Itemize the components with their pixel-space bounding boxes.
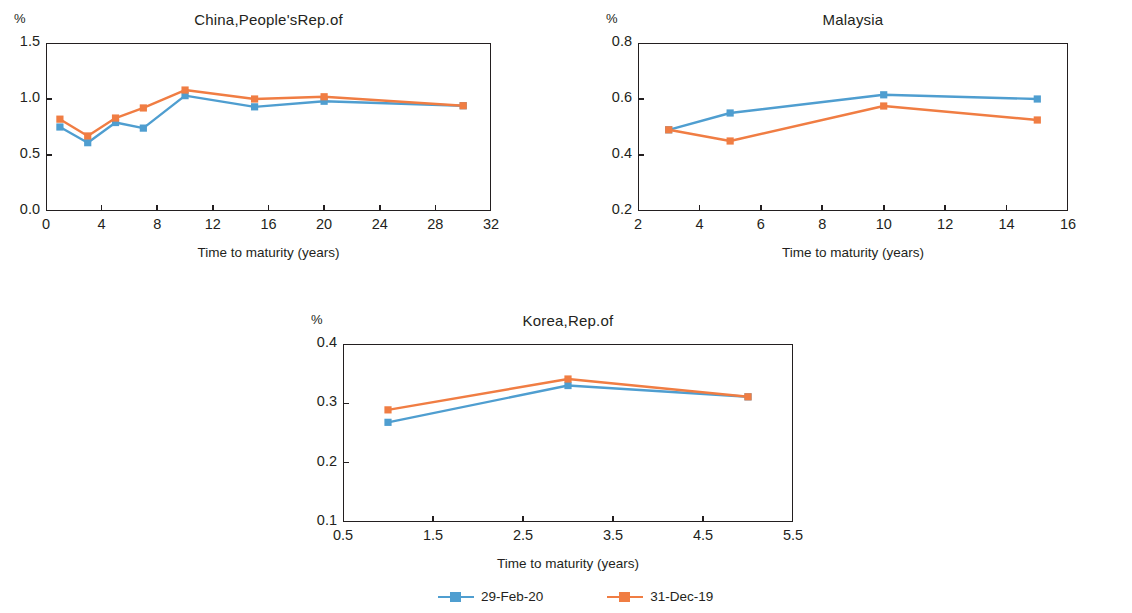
x-axis-title: Time to maturity (years): [638, 245, 1068, 260]
y-axis-tick-mark: [46, 98, 52, 100]
legend-item-31-Dec-19: 31-Dec-19: [607, 589, 713, 604]
x-axis-tick-label: 0: [21, 216, 71, 232]
x-axis-tick-mark: [1006, 205, 1008, 211]
x-axis-tick-mark: [268, 205, 270, 211]
x-axis-tick-label: 5.5: [768, 527, 818, 543]
legend-label: 31-Dec-19: [650, 589, 713, 604]
x-axis-tick-mark: [379, 205, 381, 211]
x-axis-tick-mark: [821, 205, 823, 211]
x-axis-tick-label: 10: [859, 216, 909, 232]
x-axis-tick-label: 24: [355, 216, 405, 232]
y-axis-unit-label: %: [311, 312, 323, 327]
y-axis-tick-label: 0.3: [295, 393, 337, 409]
x-axis-tick-label: 0.5: [318, 527, 368, 543]
chart-legend: 29-Feb-2031-Dec-19: [438, 589, 713, 604]
x-axis-tick-label: 16: [244, 216, 294, 232]
x-axis-tick-label: 2: [613, 216, 663, 232]
x-axis-tick-label: 8: [797, 216, 847, 232]
legend-swatch-icon: [438, 591, 474, 603]
x-axis-tick-mark: [156, 205, 158, 211]
x-axis-tick-mark: [522, 516, 524, 522]
x-axis-tick-label: 8: [132, 216, 182, 232]
legend-swatch-icon: [607, 591, 643, 603]
x-axis-tick-mark: [612, 516, 614, 522]
chart-title: China,People'sRep.of: [46, 11, 491, 28]
y-axis-tick-mark: [343, 462, 349, 464]
x-axis-tick-label: 1.5: [408, 527, 458, 543]
chart-panel-malaysia: %Malaysia0.20.40.60.8246810121416Time to…: [566, 0, 1132, 280]
x-axis-tick-mark: [944, 205, 946, 211]
plot-area: [638, 43, 1068, 211]
x-axis-tick-label: 14: [982, 216, 1032, 232]
x-axis-tick-mark: [323, 205, 325, 211]
y-axis-tick-label: 0.4: [295, 334, 337, 350]
x-axis-tick-label: 3.5: [588, 527, 638, 543]
x-axis-tick-label: 12: [188, 216, 238, 232]
plot-area: [46, 43, 491, 211]
x-axis-tick-label: 16: [1043, 216, 1093, 232]
chart-panel-china: %China,People'sRep.of0.00.51.01.50481216…: [0, 0, 566, 280]
y-axis-tick-label: 0.4: [590, 145, 632, 161]
y-axis-tick-mark: [343, 403, 349, 405]
x-axis-title: Time to maturity (years): [343, 556, 793, 571]
x-axis-tick-mark: [760, 205, 762, 211]
x-axis-tick-label: 4: [674, 216, 724, 232]
y-axis-tick-label: 0.8: [590, 33, 632, 49]
x-axis-tick-mark: [432, 516, 434, 522]
plot-area: [343, 344, 793, 522]
y-axis-tick-mark: [46, 154, 52, 156]
x-axis-title: Time to maturity (years): [46, 245, 491, 260]
y-axis-tick-label: 1.5: [0, 33, 40, 49]
x-axis-tick-label: 2.5: [498, 527, 548, 543]
y-axis-tick-mark: [638, 98, 644, 100]
x-axis-tick-label: 12: [920, 216, 970, 232]
y-axis-tick-label: 0.6: [590, 89, 632, 105]
legend-marker-icon: [450, 592, 461, 602]
y-axis-tick-mark: [638, 154, 644, 156]
x-axis-tick-label: 20: [299, 216, 349, 232]
legend-marker-icon: [619, 592, 630, 602]
x-axis-tick-mark: [699, 205, 701, 211]
x-axis-tick-label: 4: [77, 216, 127, 232]
x-axis-tick-label: 28: [410, 216, 460, 232]
y-axis-tick-label: 0.5: [0, 145, 40, 161]
x-axis-tick-mark: [702, 516, 704, 522]
y-axis-tick-label: 0.2: [590, 201, 632, 217]
x-axis-tick-label: 4.5: [678, 527, 728, 543]
y-axis-tick-label: 0.0: [0, 201, 40, 217]
x-axis-tick-label: 6: [736, 216, 786, 232]
x-axis-tick-mark: [212, 205, 214, 211]
y-axis-tick-label: 0.1: [295, 512, 337, 528]
x-axis-tick-mark: [101, 205, 103, 211]
y-axis-unit-label: %: [14, 11, 26, 26]
y-axis-unit-label: %: [606, 11, 618, 26]
y-axis-tick-label: 1.0: [0, 89, 40, 105]
x-axis-tick-mark: [435, 205, 437, 211]
x-axis-tick-mark: [883, 205, 885, 211]
chart-title: Korea,Rep.of: [343, 312, 793, 329]
chart-panel-korea: %Korea,Rep.of0.10.20.30.40.51.52.53.54.5…: [283, 300, 849, 580]
y-axis-tick-label: 0.2: [295, 453, 337, 469]
x-axis-tick-label: 32: [466, 216, 516, 232]
legend-label: 29-Feb-20: [481, 589, 543, 604]
chart-title: Malaysia: [638, 11, 1068, 28]
legend-item-29-Feb-20: 29-Feb-20: [438, 589, 543, 604]
